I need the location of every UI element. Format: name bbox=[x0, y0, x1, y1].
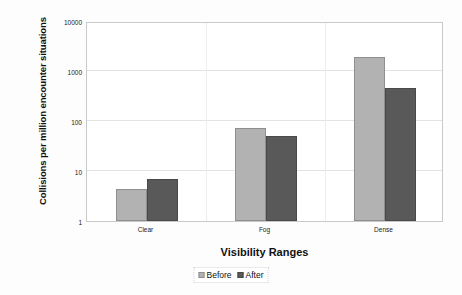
legend-label: Before bbox=[207, 270, 232, 280]
bar-clear-after bbox=[147, 179, 178, 221]
legend-entry-after[interactable]: After bbox=[238, 270, 264, 280]
x-tick-label-dense: Dense bbox=[339, 226, 429, 233]
legend-entry-before[interactable]: Before bbox=[199, 270, 232, 280]
x-tick-label-fog: Fog bbox=[220, 226, 310, 233]
x-tick-label-clear: Clear bbox=[101, 226, 191, 233]
bar-dense-before bbox=[354, 57, 385, 221]
legend-swatch-icon bbox=[238, 272, 244, 278]
y-tick-label: 100 bbox=[48, 119, 82, 126]
y-tick-label: 1 bbox=[48, 219, 82, 226]
chart-legend: BeforeAfter bbox=[194, 267, 269, 283]
y-tick-label: 1000 bbox=[48, 69, 82, 76]
y-tick-label: 10000 bbox=[48, 19, 82, 26]
plot-area bbox=[86, 22, 443, 222]
bar-clear-before bbox=[116, 189, 147, 221]
x-axis-title: Visibility Ranges bbox=[86, 246, 443, 258]
legend-label: After bbox=[246, 270, 264, 280]
gridline bbox=[87, 70, 442, 71]
bar-fog-before bbox=[235, 128, 266, 221]
y-tick-label: 10 bbox=[48, 169, 82, 176]
category-divider bbox=[206, 23, 207, 221]
category-divider bbox=[325, 23, 326, 221]
y-axis-tick-labels: 110100100010000 bbox=[46, 22, 82, 222]
bar-fog-after bbox=[266, 136, 297, 221]
legend-swatch-icon bbox=[199, 272, 205, 278]
bar-dense-after bbox=[385, 88, 416, 221]
bar-chart: Collisions per million encounter situati… bbox=[0, 0, 462, 295]
x-axis-tick-labels: ClearFogDense bbox=[86, 226, 443, 238]
